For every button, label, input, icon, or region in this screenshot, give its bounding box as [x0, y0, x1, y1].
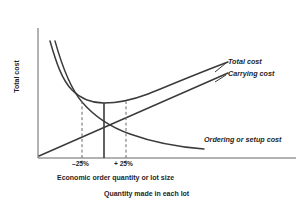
- y-axis-title: Total cost: [13, 49, 20, 105]
- x-tick-label-plus-25: + 25%: [114, 161, 133, 168]
- x-axis-title: Quantity made in each lot: [104, 190, 189, 197]
- series-label-total-cost: Total cost: [228, 58, 262, 65]
- eoq-chart: Total cost Carrying cost Ordering or set…: [0, 0, 302, 205]
- x-axis-caption-eoq: Economic order quantity or lot size: [57, 174, 174, 181]
- series-label-ordering-cost: Ordering or setup cost: [204, 136, 281, 143]
- ordering-cost-curve: [55, 41, 204, 149]
- series-label-carrying-cost: Carrying cost: [228, 70, 274, 77]
- x-tick-label-minus-25: –25%: [72, 161, 89, 168]
